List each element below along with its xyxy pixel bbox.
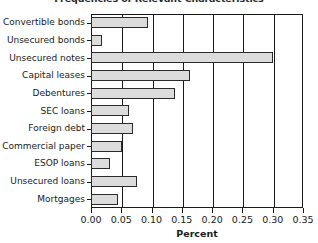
bar-row: [91, 85, 303, 103]
bar: [91, 105, 129, 116]
bar-row: [91, 67, 303, 85]
bar: [91, 17, 148, 28]
value-tick: [242, 208, 243, 213]
bar-row: [91, 32, 303, 50]
value-tick: [303, 208, 304, 213]
category-label: Capital leases: [22, 70, 85, 80]
bar-row: [91, 120, 303, 138]
bar: [91, 194, 118, 205]
category-label: ESOP loans: [34, 158, 85, 168]
bar-row: [91, 155, 303, 173]
category-label: Mortgages: [37, 194, 85, 204]
category-label: Unsecured loans: [10, 176, 85, 186]
bar: [91, 176, 137, 187]
bar-row: [91, 102, 303, 120]
category-label: Unsecured bonds: [7, 35, 85, 45]
category-label: Foreign debt: [28, 123, 85, 133]
category-label: Debentures: [33, 88, 85, 98]
bar: [91, 158, 110, 169]
value-tick-label: 0.35: [283, 214, 318, 225]
category-axis-labels: Convertible bondsUnsecured bondsUnsecure…: [0, 14, 88, 208]
bar: [91, 52, 273, 63]
bar: [91, 88, 175, 99]
value-tick: [121, 208, 122, 213]
bar: [91, 70, 190, 81]
bar-row: [91, 49, 303, 67]
value-tick: [273, 208, 274, 213]
bar-row: [91, 173, 303, 191]
value-tick: [152, 208, 153, 213]
category-label: Convertible bonds: [3, 17, 85, 27]
value-tick: [91, 208, 92, 213]
chart-title: Frequencies of Relevant Characteristics: [0, 0, 318, 4]
category-label: SEC loans: [41, 106, 85, 116]
bar: [91, 123, 133, 134]
bar-chart: Frequencies of Relevant Characteristics …: [0, 0, 318, 243]
bar: [91, 35, 102, 46]
bar-row: [91, 190, 303, 208]
category-label: Commercial paper: [2, 141, 85, 151]
value-tick: [212, 208, 213, 213]
bar: [91, 141, 122, 152]
category-label: Unsecured notes: [9, 53, 85, 63]
x-axis-title: Percent: [91, 228, 303, 239]
bars-layer: [91, 14, 303, 208]
bar-row: [91, 137, 303, 155]
value-tick: [182, 208, 183, 213]
bar-row: [91, 14, 303, 32]
